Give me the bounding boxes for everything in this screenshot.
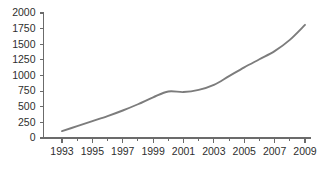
x-tick-label: 1999 — [141, 145, 165, 157]
y-tick-label: 1750 — [12, 22, 36, 34]
y-tick-label: 1500 — [12, 38, 36, 50]
x-tick-label: 1995 — [81, 145, 105, 157]
y-tick-label: 500 — [18, 100, 36, 112]
y-axis-tick-labels: 025050075010001250150017502000 — [12, 6, 36, 143]
y-tick-label: 1250 — [12, 53, 36, 65]
y-tick-label: 2000 — [12, 6, 36, 18]
y-tick-label: 750 — [18, 84, 36, 96]
y-tick-label: 0 — [30, 131, 36, 143]
line-chart: 025050075010001250150017502000 199319951… — [0, 0, 317, 171]
x-axis-tick-labels: 199319951997199920012003200520072009 — [50, 145, 317, 157]
x-tick-label: 2007 — [263, 145, 287, 157]
data-line-series — [62, 25, 305, 131]
x-tick-label: 1997 — [111, 145, 135, 157]
x-tick-label: 2005 — [233, 145, 257, 157]
y-tick-label: 1000 — [12, 69, 36, 81]
x-tick-label: 2009 — [293, 145, 317, 157]
x-tick-label: 2003 — [202, 145, 226, 157]
x-tick-label: 1993 — [50, 145, 74, 157]
chart-container: 025050075010001250150017502000 199319951… — [0, 0, 317, 171]
y-tick-label: 250 — [18, 116, 36, 128]
data-series — [62, 25, 305, 131]
x-tick-label: 2001 — [172, 145, 196, 157]
